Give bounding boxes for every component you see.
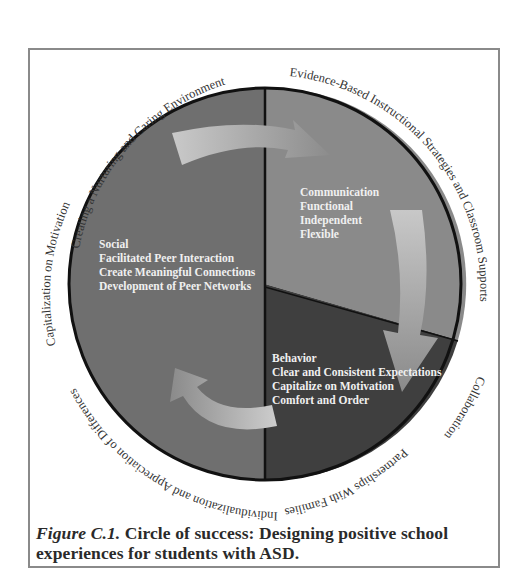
svg-text:Comfort and Order: Comfort and Order	[272, 394, 369, 406]
ring-label-collaboration: Collaboration	[441, 375, 488, 443]
svg-text:Facilitated Peer Interaction: Facilitated Peer Interaction	[99, 252, 235, 264]
svg-text:Capitalize on Motivation: Capitalize on Motivation	[272, 380, 395, 393]
svg-text:Behavior: Behavior	[272, 352, 317, 364]
circle-of-success-diagram: Creating a Nurturing and Caring Environm…	[0, 0, 529, 582]
svg-text:Clear and Consistent Expectati: Clear and Consistent Expectations	[272, 366, 442, 379]
svg-text:Functional: Functional	[300, 200, 353, 212]
svg-text:Development of Peer Networks: Development of Peer Networks	[99, 280, 252, 293]
svg-text:Create Meaningful Connections: Create Meaningful Connections	[99, 266, 256, 279]
svg-text:Social: Social	[99, 238, 128, 250]
figure-caption: Figure C.1. Circle of success: Designing…	[36, 523, 496, 563]
caption-figure-label: Figure C.1.	[36, 523, 120, 543]
svg-text:Flexible: Flexible	[300, 228, 339, 240]
svg-text:Independent: Independent	[300, 214, 362, 227]
svg-text:Communication: Communication	[300, 186, 380, 198]
